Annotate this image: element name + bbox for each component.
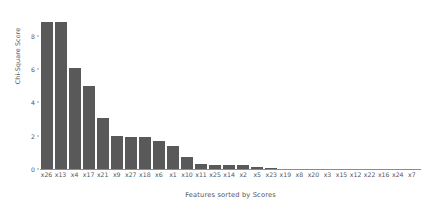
bar xyxy=(153,141,165,169)
y-tick-mark xyxy=(37,69,40,70)
x-axis-tick-labels: x26x13x4x17x21x9x27x18x6x1x10x11x25x14x2… xyxy=(40,171,421,185)
x-axis-title: Features sorted by Scores xyxy=(40,191,421,199)
bar xyxy=(41,22,53,170)
y-tick-mark xyxy=(37,135,40,136)
y-tick-label: 4 xyxy=(31,99,35,106)
y-tick-mark xyxy=(37,102,40,103)
y-tick-label: 6 xyxy=(31,66,35,73)
x-tick-label: x7 xyxy=(400,171,424,178)
y-tick-label: 2 xyxy=(31,132,35,139)
bar xyxy=(83,86,95,169)
bar xyxy=(97,118,109,169)
bar xyxy=(55,22,67,169)
y-tick-mark xyxy=(37,35,40,36)
x-axis-line xyxy=(40,169,421,170)
bar xyxy=(181,157,193,169)
plot-area xyxy=(40,14,421,169)
bar xyxy=(139,137,151,169)
y-tick-mark xyxy=(37,169,40,170)
bar xyxy=(125,137,137,170)
y-tick-label: 8 xyxy=(31,32,35,39)
bar xyxy=(111,136,123,169)
bar xyxy=(167,146,179,169)
chi-square-bar-chart: Chi-Square Score 02468 x26x13x4x17x21x9x… xyxy=(0,0,429,211)
bar xyxy=(69,68,81,169)
y-axis-tick-labels: 02468 xyxy=(0,0,40,211)
